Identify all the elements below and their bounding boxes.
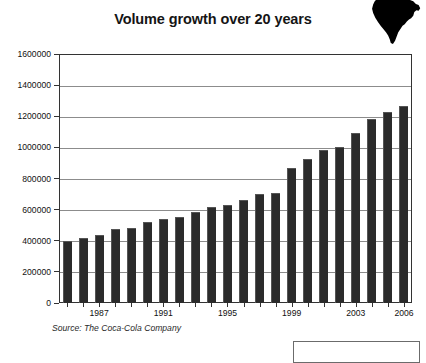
y-tick-mark bbox=[54, 54, 59, 55]
y-tick-mark bbox=[54, 178, 59, 179]
y-tick-label: 200000 bbox=[0, 267, 51, 277]
x-tick-mark bbox=[99, 303, 100, 307]
bar bbox=[127, 228, 136, 303]
y-tick-mark bbox=[54, 209, 59, 210]
bar bbox=[63, 241, 72, 303]
bar bbox=[111, 229, 120, 303]
bar bbox=[175, 217, 184, 303]
legend-box bbox=[293, 341, 420, 363]
x-tick-mark bbox=[404, 303, 405, 307]
x-tick-mark bbox=[147, 303, 148, 307]
bar bbox=[271, 193, 280, 303]
y-tick-label: 800000 bbox=[0, 174, 51, 184]
x-tick-label: 2006 bbox=[394, 308, 413, 318]
source-note: Source: The Coca-Cola Company bbox=[52, 323, 181, 333]
x-tick-mark bbox=[324, 303, 325, 307]
bar bbox=[143, 222, 152, 303]
bar bbox=[287, 168, 296, 303]
y-tick-mark bbox=[54, 271, 59, 272]
bar bbox=[239, 200, 248, 303]
bar bbox=[351, 133, 360, 303]
bar bbox=[255, 194, 264, 303]
bar bbox=[335, 147, 344, 303]
x-tick-mark bbox=[67, 303, 68, 307]
y-tick-label: 600000 bbox=[0, 205, 51, 215]
bar bbox=[383, 112, 392, 303]
y-tick-label: 400000 bbox=[0, 236, 51, 246]
y-tick-mark bbox=[54, 240, 59, 241]
page-title: Volume growth over 20 years bbox=[0, 11, 426, 27]
bar bbox=[399, 106, 408, 303]
x-tick-mark bbox=[83, 303, 84, 307]
africa-map-icon bbox=[365, 0, 423, 44]
bar bbox=[159, 219, 168, 303]
x-tick-mark bbox=[179, 303, 180, 307]
gridline bbox=[60, 86, 411, 87]
y-tick-mark bbox=[54, 147, 59, 148]
x-tick-mark bbox=[388, 303, 389, 307]
y-tick-label: 1200000 bbox=[0, 111, 51, 121]
x-tick-mark bbox=[131, 303, 132, 307]
x-tick-label: 1995 bbox=[218, 308, 237, 318]
x-tick-label: 1987 bbox=[90, 308, 109, 318]
x-tick-mark bbox=[227, 303, 228, 307]
bar bbox=[207, 207, 216, 303]
y-tick-label: 1600000 bbox=[0, 49, 51, 59]
bar bbox=[95, 235, 104, 303]
x-tick-mark bbox=[163, 303, 164, 307]
x-tick-mark bbox=[115, 303, 116, 307]
x-tick-label: 1991 bbox=[154, 308, 173, 318]
y-tick-label: 1400000 bbox=[0, 80, 51, 90]
y-tick-label: 1000000 bbox=[0, 142, 51, 152]
x-tick-mark bbox=[356, 303, 357, 307]
x-tick-mark bbox=[244, 303, 245, 307]
x-tick-mark bbox=[340, 303, 341, 307]
y-tick-mark bbox=[54, 116, 59, 117]
y-tick-mark bbox=[54, 85, 59, 86]
x-tick-mark bbox=[195, 303, 196, 307]
x-tick-mark bbox=[260, 303, 261, 307]
bar bbox=[191, 212, 200, 303]
bar bbox=[319, 150, 328, 303]
y-tick-label: 0 bbox=[0, 298, 51, 308]
x-tick-mark bbox=[276, 303, 277, 307]
x-tick-mark bbox=[292, 303, 293, 307]
x-axis: 198719911995199920032006 bbox=[59, 303, 412, 325]
x-tick-label: 2003 bbox=[346, 308, 365, 318]
x-tick-mark bbox=[372, 303, 373, 307]
bar bbox=[223, 205, 232, 303]
bar bbox=[367, 119, 376, 303]
x-tick-mark bbox=[308, 303, 309, 307]
x-tick-mark bbox=[211, 303, 212, 307]
gridline bbox=[60, 117, 411, 118]
bar bbox=[79, 238, 88, 303]
x-tick-label: 1999 bbox=[282, 308, 301, 318]
bar bbox=[303, 159, 312, 303]
